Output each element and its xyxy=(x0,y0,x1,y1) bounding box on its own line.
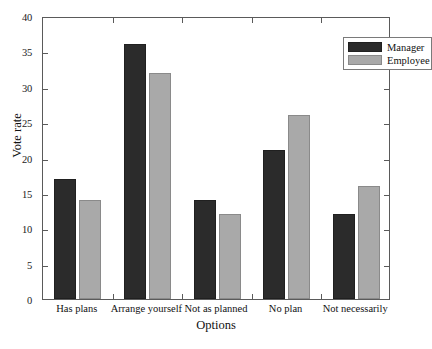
bar-employee-2 xyxy=(219,214,241,299)
y-tick-mark xyxy=(43,266,48,267)
x-tick-label: No plan xyxy=(269,303,303,314)
legend-item-manager: Manager xyxy=(348,41,427,53)
bar-manager-3 xyxy=(263,150,285,299)
x-tick-mark xyxy=(252,294,253,299)
bar-employee-1 xyxy=(149,73,171,299)
x-tick-label: Arrange yourself xyxy=(111,303,182,314)
x-tick-mark-top xyxy=(252,18,253,23)
bar-employee-0 xyxy=(79,200,101,299)
y-tick-label: 40 xyxy=(22,12,32,23)
y-tick-mark xyxy=(43,124,48,125)
y-tick-mark xyxy=(43,89,48,90)
bar-manager-0 xyxy=(54,179,76,299)
y-tick-mark-right xyxy=(384,89,389,90)
legend-swatch-employee-icon xyxy=(348,55,382,65)
x-tick-mark xyxy=(182,294,183,299)
y-tick-label: 0 xyxy=(27,295,32,306)
x-tick-mark xyxy=(113,294,114,299)
y-tick-mark-right xyxy=(384,124,389,125)
x-axis-title: Options xyxy=(42,318,390,333)
legend-label-manager: Manager xyxy=(387,42,424,53)
plot-area: Manager Employee xyxy=(42,17,390,300)
y-tick-mark-right xyxy=(384,195,389,196)
y-tick-mark-right xyxy=(384,266,389,267)
y-tick-label: 5 xyxy=(27,259,32,270)
bar-manager-4 xyxy=(333,214,355,299)
chart-legend: Manager Employee xyxy=(343,37,432,70)
x-tick-mark-top xyxy=(182,18,183,23)
x-axis-tick-labels: Has plansArrange yourselfNot as plannedN… xyxy=(42,303,390,319)
x-tick-label: Has plans xyxy=(56,303,97,314)
y-tick-mark xyxy=(43,195,48,196)
x-tick-mark xyxy=(321,294,322,299)
legend-swatch-manager-icon xyxy=(348,42,382,52)
x-tick-mark-top xyxy=(113,18,114,23)
y-tick-mark xyxy=(43,160,48,161)
bar-manager-2 xyxy=(194,200,216,299)
x-tick-label: Not necessarily xyxy=(323,303,388,314)
y-tick-mark xyxy=(43,53,48,54)
legend-label-employee: Employee xyxy=(387,55,430,66)
legend-item-employee: Employee xyxy=(348,54,427,66)
y-tick-mark xyxy=(43,230,48,231)
y-axis-title: Vote rate xyxy=(10,81,25,191)
bar-employee-4 xyxy=(358,186,380,299)
x-tick-mark-top xyxy=(321,18,322,23)
y-tick-label: 35 xyxy=(22,47,32,58)
y-tick-mark-right xyxy=(384,160,389,161)
y-tick-label: 10 xyxy=(22,224,32,235)
bar-manager-1 xyxy=(124,44,146,299)
y-tick-mark-right xyxy=(384,230,389,231)
bar-employee-3 xyxy=(288,115,310,299)
x-tick-label: Not as planned xyxy=(185,303,248,314)
